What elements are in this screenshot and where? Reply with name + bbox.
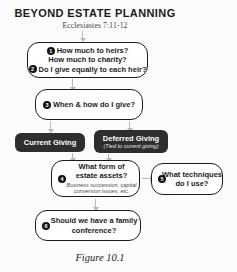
arrow-when-to-current [50, 121, 51, 129]
flowchart-page: BEYOND ESTATE PLANNING Ecclesiastes 7:11… [0, 0, 237, 272]
deferred-giving-subtext: (Tied to current giving) [104, 143, 159, 150]
deferred-giving-box: Deferred Giving (Tied to current giving) [94, 130, 168, 153]
arrow-title-to-heirs [82, 31, 83, 38]
arrow-current-to-assets [72, 153, 73, 158]
equally-question: Do I give equally to each heir? [39, 65, 147, 74]
current-giving-label: Current Giving [24, 138, 77, 147]
step-3-badge: 3 [43, 101, 51, 109]
assets-question-line2: estate assets? [76, 171, 128, 180]
conference-question-line2: conference? [72, 226, 117, 235]
conference-question-line1: Should we have a family [51, 216, 138, 225]
heirs-charity-box: 1 How much to heirs? How much to charity… [27, 42, 148, 78]
techniques-box: 5 What techniques do I use? [151, 163, 223, 195]
deferred-giving-label: Deferred Giving [103, 134, 159, 143]
when-line: 3 When & how do I give? [43, 100, 135, 109]
family-conference-box: 6 Should we have a family conference? [35, 210, 141, 241]
step-2-badge: 2 [29, 65, 37, 73]
page-title: BEYOND ESTATE PLANNING [0, 7, 190, 19]
when-question: When & how do I give? [53, 100, 135, 109]
assets-subtext: Business succession, capital conversion … [64, 182, 139, 195]
equally-line: 2 Do I give equally to each heir? [29, 65, 147, 74]
page-subtitle: Ecclesiastes 7:11-12 [0, 21, 190, 30]
arrow-heirs-to-when [72, 79, 73, 87]
step-6-badge: 6 [42, 222, 50, 230]
charity-question: How much to charity? [48, 55, 126, 64]
techniques-question-line1: What techniques [162, 170, 222, 179]
step-1-badge: 1 [47, 47, 55, 55]
assets-question-line1: What form of [78, 162, 124, 171]
heirs-question: How much to heirs? [57, 46, 129, 55]
figure-caption: Figure 10.1 [30, 252, 170, 263]
when-how-box: 3 When & how do I give? [35, 89, 143, 120]
charity-line: How much to charity? [48, 55, 126, 64]
heirs-line: 1 How much to heirs? [47, 46, 129, 55]
arrow-assets-to-conference [95, 199, 96, 207]
current-giving-box: Current Giving [15, 133, 85, 152]
step-4-badge: 4 [58, 175, 66, 183]
arrow-deferred-to-assets [108, 154, 109, 158]
estate-assets-box: 4 What form of estate assets? Business s… [51, 160, 140, 197]
step-5-badge: 5 [158, 175, 166, 183]
arrow-assets-to-techniques [142, 178, 150, 179]
arrow-when-to-deferred [129, 121, 130, 128]
techniques-question-line2: do I use? [176, 179, 209, 188]
